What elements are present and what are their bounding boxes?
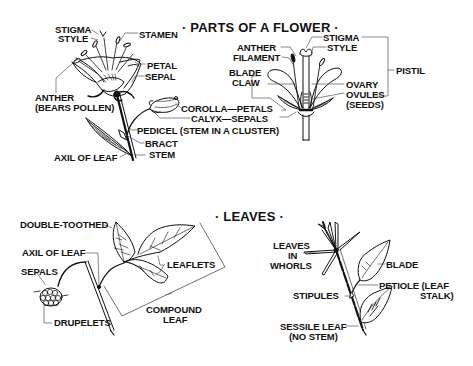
label-drupelets: DRUPELETS bbox=[54, 318, 111, 328]
label-calyx-sepals: CALYX—SEPALS bbox=[191, 114, 268, 124]
label-sepals-bramble: SEPALS bbox=[21, 267, 58, 277]
label-leaves-in-whorls-3: WHORLS bbox=[270, 261, 312, 271]
label-blade-leaf: BLADE bbox=[386, 260, 418, 270]
label-stipules: STIPULES bbox=[293, 291, 339, 301]
label-bract: BRACT bbox=[145, 139, 178, 149]
flower-section-title: · PARTS OF A FLOWER · bbox=[182, 20, 339, 35]
label-anther-bears-pollen-2: (BEARS POLLEN) bbox=[35, 103, 114, 113]
label-petal: PETAL bbox=[147, 61, 177, 71]
label-petiole-2: STALK) bbox=[420, 291, 454, 301]
label-axil-of-leaf-flower: AXIL OF LEAF bbox=[54, 153, 118, 163]
label-style-right: STYLE bbox=[327, 43, 357, 53]
label-axil-of-leaf-bramble: AXIL OF LEAF bbox=[22, 248, 86, 258]
label-ovules-2: (SEEDS) bbox=[346, 100, 384, 110]
label-sepal: SEPAL bbox=[145, 72, 175, 82]
label-sessile-leaf-2: (NO STEM) bbox=[289, 332, 338, 342]
label-leaflets: LEAFLETS bbox=[167, 260, 215, 270]
leaves-section-title: · LEAVES · bbox=[215, 209, 284, 224]
label-compound-leaf-2: LEAF bbox=[163, 315, 187, 325]
label-pistil: PISTIL bbox=[396, 66, 425, 76]
label-claw: CLAW bbox=[232, 78, 260, 88]
botany-diagram: · PARTS OF A FLOWER · STIGMA STYLE STAME… bbox=[0, 0, 473, 366]
label-style-left: STYLE bbox=[58, 34, 88, 44]
label-stamen: STAMEN bbox=[139, 30, 178, 40]
label-filament: FILAMENT bbox=[233, 53, 280, 63]
label-pedicel: PEDICEL (STEM IN A CLUSTER) bbox=[137, 126, 279, 136]
label-stem: STEM bbox=[149, 150, 175, 160]
simple-stem-illustration bbox=[304, 222, 392, 335]
label-double-toothed: DOUBLE-TOOTHED bbox=[20, 220, 108, 230]
